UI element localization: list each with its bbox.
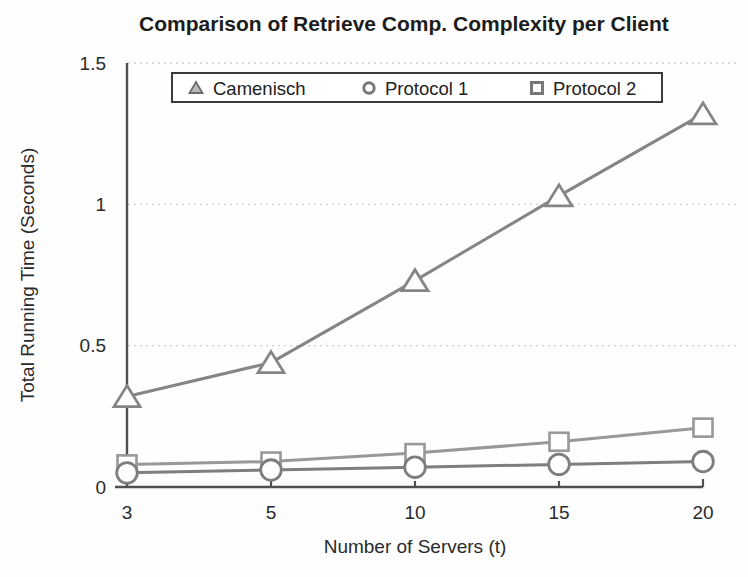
legend-label-protocol-2: Protocol 2 (553, 78, 636, 99)
series-layer (114, 103, 716, 483)
x-tick-label-5: 5 (266, 502, 277, 523)
series-protocol-2-point-15 (550, 433, 569, 451)
legend-square-icon (532, 83, 543, 94)
figure: 00.511.535101520 Comparison of Retrieve … (0, 0, 748, 577)
series-camenisch-point-10 (402, 270, 428, 291)
x-axis-title: Number of Servers (t) (324, 536, 507, 557)
series-protocol-2-point-20 (694, 419, 713, 437)
y-tick-label-0.5: 0.5 (80, 335, 106, 356)
series-protocol-1-point-10 (405, 457, 426, 478)
series-camenisch-point-3 (114, 386, 140, 407)
y-axis-title: Total Running Time (Seconds) (17, 148, 38, 403)
legend-label-camenisch: Camenisch (213, 78, 306, 99)
axes-layer (115, 63, 703, 487)
line-chart: 00.511.535101520 Comparison of Retrieve … (0, 0, 748, 577)
gridlines-layer (128, 63, 739, 346)
legend-label-protocol-1: Protocol 1 (385, 78, 468, 99)
series-protocol-1-point-15 (549, 454, 570, 475)
y-tick-label-1: 1 (95, 194, 106, 215)
x-tick-label-10: 10 (404, 502, 425, 523)
x-tick-label-15: 15 (548, 502, 569, 523)
series-camenisch-point-15 (546, 185, 572, 206)
chart-title: Comparison of Retrieve Comp. Complexity … (139, 12, 669, 35)
series-camenisch-line (127, 114, 703, 397)
x-tick-label-3: 3 (122, 502, 133, 523)
series-camenisch-point-20 (690, 103, 716, 124)
tick-labels-layer: 00.511.535101520 (80, 53, 714, 524)
series-protocol-1 (117, 451, 714, 483)
series-protocol-1-point-5 (261, 460, 282, 481)
y-tick-label-1.5: 1.5 (80, 53, 106, 74)
x-tick-label-20: 20 (692, 502, 713, 523)
series-camenisch-point-5 (258, 352, 284, 373)
series-protocol-1-point-3 (117, 463, 138, 484)
legend-circle-icon (364, 83, 374, 93)
series-protocol-1-point-20 (693, 451, 714, 472)
legend: Camenisch Protocol 1 Protocol 2 (172, 73, 662, 102)
series-camenisch (114, 103, 716, 407)
y-tick-label-0: 0 (95, 477, 106, 498)
